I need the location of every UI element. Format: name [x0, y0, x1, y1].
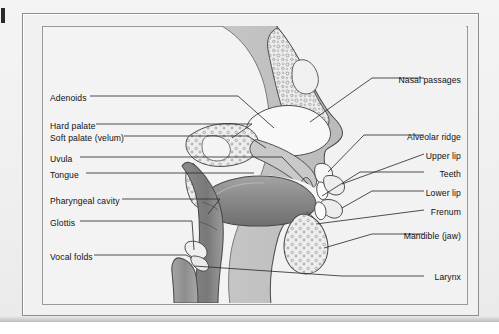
anatomy-svg — [42, 26, 466, 303]
label-mandible-jaw: Mandible (jaw) — [404, 231, 461, 241]
figure-page: Adenoids Hard palate Soft palate (velum)… — [0, 0, 499, 334]
leader-glottis — [80, 221, 194, 250]
label-nasal-passages: Nasal passages — [398, 75, 461, 85]
label-teeth: Teeth — [439, 169, 461, 179]
label-lower-lip: Lower lip — [426, 188, 461, 198]
paper-edge — [0, 322, 499, 334]
page-edge-artifact — [1, 8, 5, 23]
label-uvula: Uvula — [50, 154, 72, 164]
label-pharyngeal-cavity: Pharyngeal cavity — [50, 196, 120, 206]
label-glottis: Glottis — [50, 218, 75, 228]
leader-adenoids — [90, 96, 274, 128]
label-hard-palate: Hard palate — [50, 121, 96, 131]
vocal-tract-illustration — [42, 26, 466, 303]
label-vocal-folds: Vocal folds — [50, 252, 93, 262]
label-alveolar-ridge: Alveolar ridge — [407, 132, 461, 142]
label-tongue: Tongue — [50, 170, 79, 180]
label-soft-palate: Soft palate (velum) — [50, 133, 124, 143]
label-larynx: Larynx — [435, 272, 461, 282]
label-adenoids: Adenoids — [50, 93, 87, 103]
label-upper-lip: Upper lip — [426, 151, 461, 161]
label-frenum: Frenum — [431, 207, 461, 217]
